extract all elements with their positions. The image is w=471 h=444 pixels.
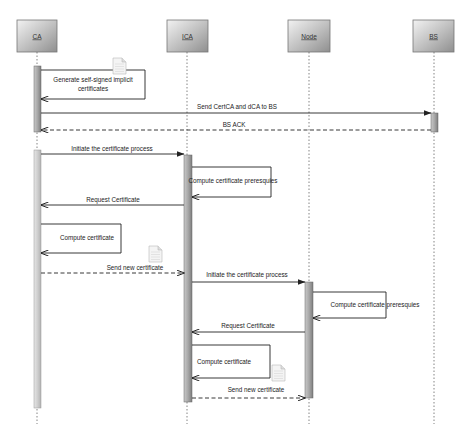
message-send-certca-to-bs: Send CertCA and dCA to BS: [41, 103, 431, 113]
svg-text:Compute certificate preresquie: Compute certificate preresquies: [331, 301, 420, 309]
svg-text:BS ACK: BS ACK: [223, 121, 247, 128]
svg-text:Initiate the certificate proce: Initiate the certificate process: [71, 145, 153, 153]
activation-bs: [431, 113, 438, 132]
activation-ica: [184, 155, 192, 402]
participant-node-label: Node: [301, 33, 317, 40]
message-send-new-cert-ca-to-ica: Send new certificate: [41, 264, 184, 273]
message-ica-compute-cert: Compute certificate: [192, 345, 270, 378]
svg-text:Send new certificate: Send new certificate: [107, 264, 164, 271]
participant-ica-label: ICA: [182, 33, 194, 40]
participant-bs-label: BS: [429, 33, 438, 40]
message-ica-compute-prereq: Compute certificate preresquies: [189, 167, 278, 197]
sequence-diagram: CA ICA Node BS Generate self-signed impl…: [0, 0, 471, 444]
svg-text:Initiate the certificate proce: Initiate the certificate process: [206, 271, 288, 279]
message-send-new-cert-ica-to-node: Send new certificate: [192, 386, 305, 398]
message-generate-self-signed: Generate self-signed implicit certificat…: [41, 70, 145, 99]
message-node-compute-prereq: Compute certificate preresquies: [313, 292, 419, 318]
message-bs-ack: BS ACK: [41, 121, 431, 130]
svg-text:certificates: certificates: [78, 85, 108, 92]
message-request-cert-ica-to-ca: Request Certificate: [41, 196, 184, 205]
message-ca-compute-cert: Compute certificate: [41, 224, 121, 253]
message-initiate-ca-to-ica: Initiate the certificate process: [41, 145, 184, 154]
message-initiate-ica-to-node: Initiate the certificate process: [192, 271, 305, 282]
svg-text:Request Certificate: Request Certificate: [86, 196, 140, 204]
svg-text:Generate self-signed implicit: Generate self-signed implicit: [53, 76, 133, 84]
svg-text:Send new certificate: Send new certificate: [228, 386, 285, 393]
document-icon: [113, 58, 126, 74]
participant-bs: BS: [413, 20, 454, 52]
document-icon: [149, 246, 162, 262]
svg-text:Compute certificate: Compute certificate: [60, 234, 115, 242]
svg-text:Compute certificate preresquie: Compute certificate preresquies: [189, 177, 278, 185]
participant-ica: ICA: [167, 20, 208, 52]
participant-ca-label: CA: [32, 33, 42, 40]
svg-text:Compute certificate: Compute certificate: [197, 358, 252, 366]
activation-node: [305, 282, 313, 398]
message-request-cert-node-to-ica: Request Certificate: [192, 322, 305, 332]
svg-text:Send CertCA and dCA to BS: Send CertCA and dCA to BS: [197, 103, 277, 110]
activation-ca-1: [34, 66, 41, 132]
svg-text:Request Certificate: Request Certificate: [221, 322, 275, 330]
document-icon: [272, 365, 285, 381]
activation-ca-2: [34, 150, 41, 408]
participant-node: Node: [288, 20, 330, 52]
participant-ca: CA: [17, 20, 57, 52]
